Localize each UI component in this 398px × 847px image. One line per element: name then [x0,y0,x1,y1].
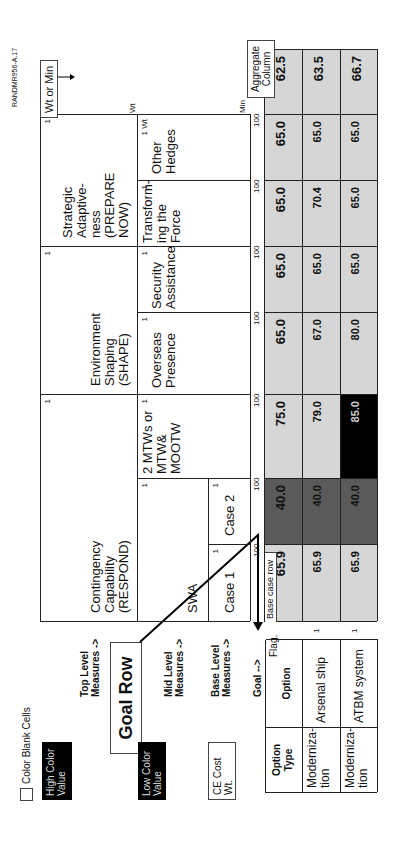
mid-measure-other-hedges[interactable]: Other Hedges 1 Wt [138,114,251,180]
mid-measure-2-mtws[interactable]: 2 MTWs or MTW& MOOTW 1 [138,394,251,478]
aggregate-cell[interactable]: 66.7 [341,49,378,114]
top-measure-respond[interactable]: Contingency Capability (RESPOND) 1 [41,394,138,621]
option-type-cell[interactable]: Moderniza-tion [303,727,341,792]
score-cell[interactable]: 80.0 [341,312,378,394]
min-tag: Min [238,100,247,113]
score-cell[interactable]: 67.0 [303,312,341,394]
measures-header-table: Contingency Capability (RESPOND) 1 Envir… [40,115,250,622]
option-cell-atbm-system[interactable]: ATBM system [341,639,378,727]
score-cell[interactable]: 65.0 [265,312,303,394]
mid-measure-transforming-force[interactable]: Transform-ing the Force 1 [138,180,251,246]
top-level-wt-tag: Wt [128,103,137,113]
score-cell[interactable]: 40.0 [341,478,378,544]
score-cell[interactable]: 65.0 [303,246,341,312]
option-type-header: Option Type [266,727,303,792]
score-cell[interactable]: 65.0 [265,246,303,312]
options-table: Option Type Option Moderniza-tion Arsena… [265,640,377,793]
score-cell[interactable]: 65.0 [341,180,378,246]
goal-value: 100 [252,544,261,557]
goal-value: 100 [252,246,261,259]
option-cell-arsenal-ship[interactable]: Arsenal ship [303,639,341,727]
base-case-row-label: Base case row [265,552,277,622]
top-measure-prepare-now[interactable]: Strategic Adaptive-ness (PREPARE NOW) 1 [41,114,138,246]
goal-value: 100 [252,394,261,407]
score-cell[interactable]: 79.0 [303,394,341,478]
score-cell[interactable]: 75.0 [265,394,303,478]
scores-grid: 65.9 40.0 75.0 65.0 65.0 65.0 65.0 62.5 … [264,50,377,622]
base-measure-case-1[interactable]: Case 1 1 [208,544,251,621]
rotated-figure: RANDMR956-A.17 Color Blank Cells High Co… [0,0,398,847]
score-cell[interactable]: 65.0 [265,180,303,246]
score-cell[interactable]: 65.0 [341,114,378,180]
score-cell[interactable]: 65.0 [303,114,341,180]
mid-measure-overseas-presence[interactable]: Overseas Presence 1 [138,312,251,394]
top-measure-shape[interactable]: Environment Shaping (SHAPE) 1 [41,246,138,394]
flag-value: 1 [312,629,321,633]
score-cell[interactable]: 85.0 [341,394,378,478]
mid-measure-security-assistance[interactable]: Security Assistance 1 [138,246,251,312]
score-cell[interactable]: 65.9 [303,544,341,621]
option-type-cell[interactable]: Moderniza-tion [341,727,378,792]
base-measure-case-2[interactable]: Case 2 1 [208,478,251,544]
score-cell[interactable]: 40.0 [265,478,303,544]
goal-value: 100 [252,114,261,127]
goal-value: 100 [252,312,261,325]
aggregate-column-label: Aggregate Column [247,40,275,98]
wt-or-min-box: Wt or Min [40,60,58,118]
score-cell[interactable]: 65.0 [265,114,303,180]
score-cell[interactable]: 65.9 [341,544,378,621]
score-cell[interactable]: 70.4 [303,180,341,246]
score-cell[interactable]: 40.0 [303,478,341,544]
goal-value: 100 [252,478,261,491]
option-header: Option [266,639,303,727]
goal-value: 100 [252,180,261,193]
score-cell[interactable]: 65.0 [341,246,378,312]
flag-value: 1 [350,629,359,633]
aggregate-cell[interactable]: 63.5 [303,49,341,114]
